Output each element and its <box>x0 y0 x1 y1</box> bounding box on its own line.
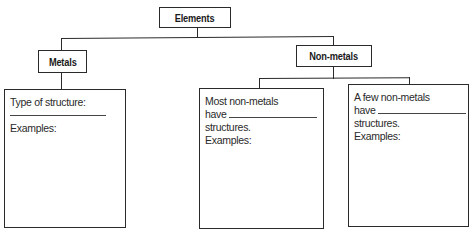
most-nonmetals-blank[interactable] <box>229 108 317 118</box>
metals-drop-line <box>61 39 62 50</box>
metals-label: Metals <box>49 56 77 68</box>
metals-detail-box: Type of structure: Examples: <box>4 89 126 228</box>
few-nonmetals-blank[interactable] <box>378 104 466 114</box>
few-nonmetals-have: have <box>354 104 376 116</box>
nonmetals-label: Non-metals <box>310 50 359 62</box>
type-of-structure-label: Type of structure: <box>10 96 120 109</box>
most-nonmetals-text: Most non-metals <box>205 95 318 108</box>
few-nonmetals-examples-label: Examples: <box>354 130 463 143</box>
metals-examples-label: Examples: <box>10 122 120 135</box>
most-nonmetals-have: have <box>205 108 227 120</box>
main-horizontal-connector <box>61 36 334 39</box>
few-nonmetals-structures: structures. <box>354 117 463 130</box>
most-nonmetals-box: Most non-metals have structures. Example… <box>199 88 324 229</box>
type-of-structure-blank[interactable] <box>10 109 106 116</box>
most-nonmetals-examples-label: Examples: <box>205 134 318 147</box>
nonmetals-node: Non-metals <box>296 45 372 67</box>
nonmetals-sub-connector <box>259 77 410 79</box>
few-nonmetals-text: A few non-metals <box>354 91 463 104</box>
most-nonmetals-drop <box>259 78 260 88</box>
metals-node: Metals <box>38 50 87 73</box>
elements-label: Elements <box>175 12 215 24</box>
elements-node: Elements <box>159 7 231 28</box>
metals-stem <box>61 72 62 89</box>
most-nonmetals-structures: structures. <box>205 121 318 134</box>
few-nonmetals-box: A few non-metals have structures. Exampl… <box>348 84 469 227</box>
